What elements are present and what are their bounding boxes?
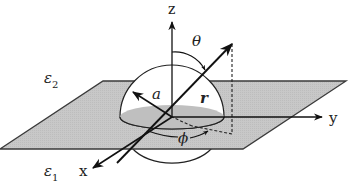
y-axis-label: y — [328, 109, 338, 127]
radius-label-a: a — [152, 85, 161, 103]
svg-text:ε: ε — [44, 162, 52, 180]
lower-hemisphere-arc — [132, 148, 212, 163]
vector-label-r: r — [200, 89, 209, 107]
svg-text:2: 2 — [52, 79, 58, 90]
epsilon-2-label: ε 2 — [44, 69, 58, 90]
svg-text:1: 1 — [52, 172, 58, 183]
theta-label: θ — [192, 32, 201, 50]
svg-text:ε: ε — [44, 69, 52, 87]
epsilon-1-label: ε 1 — [44, 162, 58, 183]
phi-label: ϕ — [178, 129, 188, 147]
x-axis-label: x — [79, 162, 88, 180]
z-axis-label: z — [168, 1, 175, 17]
spherical-coordinate-diagram: z y x θ ϕ a r ε 2 ε 1 — [0, 0, 361, 192]
